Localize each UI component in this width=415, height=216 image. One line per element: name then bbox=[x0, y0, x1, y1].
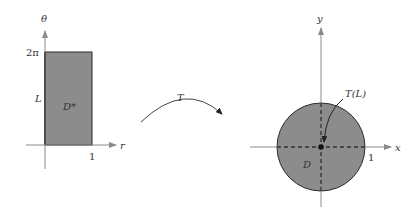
right-plot: T(L) D x 1 y bbox=[250, 13, 401, 207]
x-axis-label: x bbox=[395, 142, 401, 153]
y-axis-label: y bbox=[316, 13, 323, 24]
transform-label: T bbox=[177, 92, 185, 103]
r-tick-label: 1 bbox=[89, 151, 95, 162]
r-axis-label: r bbox=[120, 140, 126, 151]
x-tick-label: 1 bbox=[368, 152, 374, 163]
left-plot: θ 2π L D* r 1 bbox=[26, 13, 126, 169]
region-d-star bbox=[45, 52, 92, 145]
polar-transform-diagram: θ 2π L D* r 1 T T(L) D x 1 y bbox=[0, 0, 415, 216]
transform-arrow-group: T bbox=[141, 92, 222, 122]
region-d-label: D bbox=[302, 159, 311, 170]
two-pi-tick-label: 2π bbox=[26, 47, 39, 58]
origin-point bbox=[318, 144, 324, 150]
edge-l-label: L bbox=[34, 93, 42, 104]
t-of-l-label: T(L) bbox=[345, 88, 366, 99]
region-d-star-label: D* bbox=[62, 101, 76, 112]
theta-axis-label: θ bbox=[41, 13, 47, 24]
